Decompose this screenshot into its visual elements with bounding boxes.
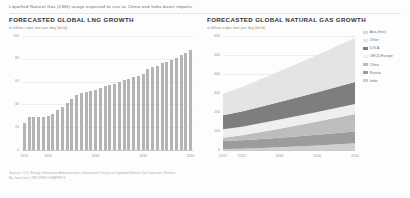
bar xyxy=(146,69,149,150)
bar xyxy=(113,84,116,150)
legend-item[interactable]: U.S.A. xyxy=(363,46,403,50)
legend-item[interactable]: Russia xyxy=(363,71,403,75)
y-axis-tick-label: 100 xyxy=(9,34,19,38)
gridline xyxy=(22,36,193,37)
legend-swatch-icon xyxy=(363,47,368,50)
bar xyxy=(61,107,64,150)
legend-swatch-icon xyxy=(363,31,368,34)
y-axis-tick-label: 40 xyxy=(9,102,19,106)
bar xyxy=(108,85,111,150)
bar xyxy=(75,95,78,150)
bar xyxy=(104,86,107,150)
legend-swatch-icon xyxy=(363,55,368,58)
bar xyxy=(42,117,45,150)
x-axis-tick-label: 2050 xyxy=(182,154,200,158)
gas-chart-title: FORECASTED GLOBAL NATURAL GAS GROWTH xyxy=(207,16,403,23)
gas-chart-legend: Asia (mix)OtherU.S.A.OECD EuropeChinaRus… xyxy=(363,30,403,87)
y-axis-tick-label: 20 xyxy=(9,125,19,129)
axis-baseline xyxy=(22,150,193,151)
legend-label: China xyxy=(370,63,379,67)
bar xyxy=(28,117,31,150)
x-axis-tick-label: 2030 xyxy=(87,154,105,158)
gridline xyxy=(22,59,193,60)
x-axis-tick-label: 2015 xyxy=(214,154,232,158)
bar xyxy=(189,50,192,150)
bar xyxy=(23,123,26,150)
bar xyxy=(118,82,121,150)
bar xyxy=(151,67,154,150)
legend-label: Russia xyxy=(370,71,381,75)
bar xyxy=(137,76,140,150)
legend-label: Other xyxy=(370,38,379,42)
source-note: Sources: U.S. Energy Information Adminis… xyxy=(9,171,259,181)
natural-gas-growth-panel: FORECASTED GLOBAL NATURAL GAS GROWTH in … xyxy=(207,16,403,186)
legend-item[interactable]: Other xyxy=(363,38,403,42)
legend-item[interactable]: Asia (mix) xyxy=(363,30,403,34)
x-axis-tick-label: 2015 xyxy=(15,154,33,158)
x-axis-tick-label: 2040 xyxy=(134,154,152,158)
legend-label: Asia (mix) xyxy=(370,30,386,34)
gas-chart-subtitle: in billion cubic feet per day (bcfd) xyxy=(207,26,403,30)
bar xyxy=(47,116,50,150)
lng-growth-panel: FORECASTED GLOBAL LNG GROWTH in billion … xyxy=(9,16,195,186)
legend-label: U.S.A. xyxy=(370,46,380,50)
header-divider xyxy=(9,13,401,14)
bar xyxy=(94,90,97,150)
bar xyxy=(127,79,130,150)
bar xyxy=(85,92,88,150)
x-axis-tick-label: 2050 xyxy=(346,154,364,158)
gas-area-chart: 010020030040050060020152020203020402050 xyxy=(207,30,357,162)
y-axis-tick-label: 80 xyxy=(9,56,19,60)
legend-swatch-icon xyxy=(363,79,368,82)
bar xyxy=(56,110,59,150)
source-line: By Jason Lee | REUTERS GRAPHICS xyxy=(9,176,259,181)
bar xyxy=(80,93,83,150)
bar xyxy=(165,62,168,150)
legend-swatch-icon xyxy=(363,63,368,66)
bar xyxy=(175,58,178,150)
bar xyxy=(132,77,135,150)
legend-item[interactable]: OECD Europe xyxy=(363,54,403,58)
infographic-page: Liquefied Natural Gas (LNG) usage expect… xyxy=(0,0,410,198)
bar xyxy=(32,117,35,150)
bar xyxy=(37,117,40,150)
x-axis-tick-label: 2040 xyxy=(308,154,326,158)
bar xyxy=(180,55,183,150)
stacked-area-svg xyxy=(207,30,357,162)
bar xyxy=(170,60,173,150)
lng-chart-subtitle: in billion cubic feet per day (bcfd) xyxy=(9,26,195,30)
bar xyxy=(123,80,126,150)
x-axis-tick-label: 2030 xyxy=(271,154,289,158)
legend-item[interactable]: India xyxy=(363,79,403,83)
bar xyxy=(161,63,164,150)
bar xyxy=(142,74,145,150)
legend-swatch-icon xyxy=(363,39,368,42)
bar xyxy=(156,66,159,150)
bar xyxy=(70,99,73,150)
legend-label: OECD Europe xyxy=(370,54,393,58)
x-axis-tick-label: 2020 xyxy=(233,154,251,158)
headline: Liquefied Natural Gas (LNG) usage expect… xyxy=(9,4,401,9)
legend-label: India xyxy=(370,79,378,83)
x-axis-tick-label: 2020 xyxy=(39,154,57,158)
bar xyxy=(89,91,92,150)
bar xyxy=(184,53,187,150)
y-axis-tick-label: 60 xyxy=(9,79,19,83)
legend-item[interactable]: China xyxy=(363,63,403,67)
lng-chart-title: FORECASTED GLOBAL LNG GROWTH xyxy=(9,16,195,23)
lng-bar-chart: 02040608010020152020203020402050 xyxy=(9,30,195,162)
bar xyxy=(51,114,54,150)
bar xyxy=(66,103,69,150)
bar xyxy=(99,88,102,150)
y-axis-tick-label: 0 xyxy=(9,148,19,152)
legend-swatch-icon xyxy=(363,71,368,74)
